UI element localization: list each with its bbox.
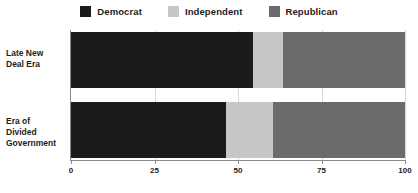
tick-mark <box>322 160 323 164</box>
table-row <box>71 32 405 88</box>
gridline <box>405 30 406 160</box>
tick-mark <box>155 160 156 164</box>
bar-segment-democrat[interactable] <box>71 102 226 158</box>
category-label-line: Government <box>6 138 68 149</box>
legend-swatch-republican <box>269 6 280 17</box>
bar-segment-independent[interactable] <box>253 32 283 88</box>
tick-mark <box>405 160 406 164</box>
plot-area <box>71 30 405 160</box>
legend-item-democrat[interactable]: Democrat <box>80 6 142 17</box>
x-tick-label: 100 <box>398 166 411 175</box>
x-tick-label: 75 <box>317 166 326 175</box>
legend-label-democrat: Democrat <box>97 7 142 17</box>
chart-legend: Democrat Independent Republican <box>0 6 418 17</box>
bar-segment-independent[interactable] <box>226 102 273 158</box>
table-row <box>71 102 405 158</box>
legend-item-independent[interactable]: Independent <box>168 6 243 17</box>
x-tick-label: 0 <box>69 166 73 175</box>
bar-segment-republican[interactable] <box>273 102 405 158</box>
chart-page: { "chart_data": { "type": "bar", "orient… <box>0 0 418 193</box>
category-label-line: Divided <box>6 127 68 138</box>
bar-segment-democrat[interactable] <box>71 32 253 88</box>
bar-segment-republican[interactable] <box>283 32 405 88</box>
category-label-line: Deal Era <box>6 59 68 70</box>
x-tick-label: 50 <box>234 166 243 175</box>
category-label-line: Era of <box>6 116 68 127</box>
category-label-era-of-divided-government: Era of Divided Government <box>6 116 68 149</box>
tick-mark <box>238 160 239 164</box>
legend-swatch-independent <box>168 6 179 17</box>
legend-label-independent: Independent <box>185 7 243 17</box>
legend-item-republican[interactable]: Republican <box>269 6 338 17</box>
tick-mark <box>71 160 72 164</box>
category-label-line: Late New <box>6 48 68 59</box>
x-tick-label: 25 <box>150 166 159 175</box>
legend-label-republican: Republican <box>286 7 338 17</box>
legend-swatch-democrat <box>80 6 91 17</box>
category-label-late-new-deal-era: Late New Deal Era <box>6 48 68 70</box>
